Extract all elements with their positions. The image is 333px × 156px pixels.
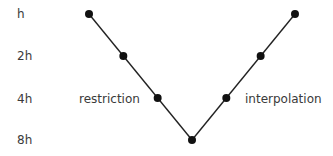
grid-node-2h [257, 52, 265, 60]
restriction-edge [123, 56, 157, 98]
grid-node-8h [188, 136, 196, 144]
grid-node-4h [222, 94, 230, 102]
restriction-edge [158, 98, 192, 140]
grid-node-h [85, 10, 93, 18]
v-cycle-edges [89, 14, 295, 140]
v-cycle-diagram [0, 0, 333, 156]
grid-node-4h [154, 94, 162, 102]
v-cycle-nodes [85, 10, 299, 144]
interpolation-edge [261, 14, 295, 56]
interpolation-edge [192, 98, 226, 140]
interpolation-edge [226, 56, 260, 98]
grid-node-2h [119, 52, 127, 60]
restriction-edge [89, 14, 123, 56]
grid-node-h [291, 10, 299, 18]
